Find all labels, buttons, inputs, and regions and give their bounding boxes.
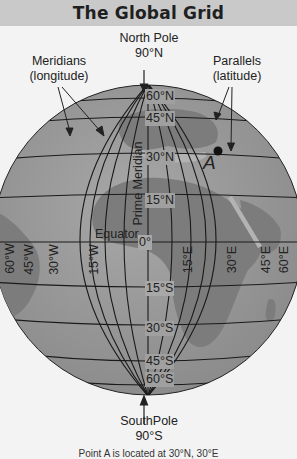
meridians-label: Meridians	[14, 54, 104, 69]
latitude-label-60n: 60°N	[145, 89, 175, 104]
latitude-label-30n: 30°N	[145, 150, 175, 165]
title-bar: The Global Grid	[0, 0, 297, 26]
meridians-sublabel: (longitude)	[14, 69, 104, 84]
latitude-label-15s: 15°S	[145, 281, 174, 296]
latitude-label-equator: 0°	[138, 235, 152, 250]
latitude-label-45n: 45°N	[145, 111, 175, 126]
point-a-label: A	[203, 153, 216, 173]
south-pole-arrowhead	[141, 396, 148, 405]
parallels-label: Parallels	[192, 54, 282, 69]
global-grid-diagram: North Pole 90°N Meridians (longitude) Pa…	[0, 26, 297, 455]
south-pole-latitude: 90°S	[94, 429, 204, 444]
south-pole-label: SouthPole	[94, 414, 204, 429]
north-pole-label: North Pole	[94, 31, 204, 46]
north-pole-latitude: 90°N	[94, 46, 204, 61]
prime-meridian-label: Prime Meridian	[131, 134, 146, 234]
longitude-label-45e: 45°E	[259, 240, 274, 280]
latitude-label-15n: 15°N	[145, 193, 175, 208]
figure-caption: Point A is located at 30°N, 30°E	[0, 448, 297, 459]
page-title: The Global Grid	[73, 3, 224, 23]
longitude-label-30w: 30°W	[47, 240, 62, 280]
longitude-label-60w: 60°W	[3, 239, 18, 279]
latitude-label-60s: 60°S	[145, 372, 174, 387]
parallels-sublabel: (latitude)	[192, 69, 282, 84]
longitude-label-45w: 45°W	[22, 240, 37, 280]
longitude-label-15w: 15°W	[87, 240, 102, 280]
longitude-label-60e: 60°E	[277, 240, 292, 280]
longitude-label-30e: 30°E	[225, 240, 240, 280]
latitude-label-45s: 45°S	[145, 354, 174, 369]
latitude-label-30s: 30°S	[145, 321, 174, 336]
longitude-label-15e: 15°E	[181, 240, 196, 280]
